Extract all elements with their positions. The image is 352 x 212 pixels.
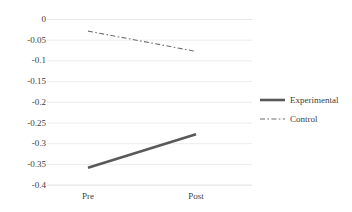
y-tick-2: -0.1 bbox=[0, 56, 46, 65]
legend-label-control: Control bbox=[290, 115, 318, 124]
series-line-control bbox=[88, 31, 196, 51]
y-tick-0: 0 bbox=[0, 15, 46, 24]
y-tick-label: -0.15 bbox=[2, 77, 46, 86]
legend-label-experimental: Experimental bbox=[290, 96, 338, 105]
y-tick-label: -0.05 bbox=[2, 36, 46, 45]
y-tick-8: -0.4 bbox=[0, 181, 46, 190]
line-chart: 0 -0.05 -0.1 -0.15 -0.2 -0.25 -0.3 -0.35… bbox=[0, 0, 352, 212]
series-line-experimental bbox=[88, 134, 196, 168]
y-tick-label: 0 bbox=[2, 15, 46, 24]
y-tick-label: -0.1 bbox=[2, 56, 46, 65]
y-tick-4: -0.2 bbox=[0, 98, 46, 107]
y-tick-label: -0.2 bbox=[2, 98, 46, 107]
x-tick-label-pre: Pre bbox=[82, 192, 94, 201]
gridlines bbox=[47, 20, 252, 186]
y-tick-1: -0.05 bbox=[0, 36, 46, 45]
y-tick-6: -0.3 bbox=[0, 139, 46, 148]
y-tick-label: -0.4 bbox=[2, 181, 46, 190]
y-tick-label: -0.35 bbox=[2, 160, 46, 169]
plot-area bbox=[0, 0, 352, 212]
y-tick-7: -0.35 bbox=[0, 160, 46, 169]
y-tick-label: -0.3 bbox=[2, 139, 46, 148]
y-tick-3: -0.15 bbox=[0, 77, 46, 86]
x-tick-label-post: Post bbox=[188, 192, 204, 201]
y-tick-5: -0.25 bbox=[0, 119, 46, 128]
y-tick-label: -0.25 bbox=[2, 119, 46, 128]
